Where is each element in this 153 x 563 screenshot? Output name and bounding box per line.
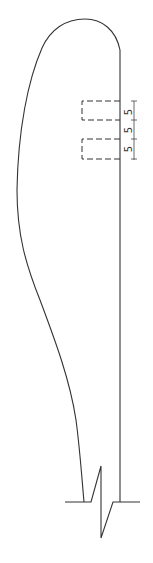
dimension-label-3: 5 xyxy=(123,146,134,152)
lower-recess-dashed-box xyxy=(82,139,120,159)
profile-outline xyxy=(17,19,120,502)
drawing-canvas: 5 5 5 xyxy=(0,0,153,563)
break-line xyxy=(65,466,140,538)
dimension-label-2: 5 xyxy=(123,127,134,133)
dimension-label-1: 5 xyxy=(123,109,134,115)
upper-recess-dashed-box xyxy=(82,101,120,120)
